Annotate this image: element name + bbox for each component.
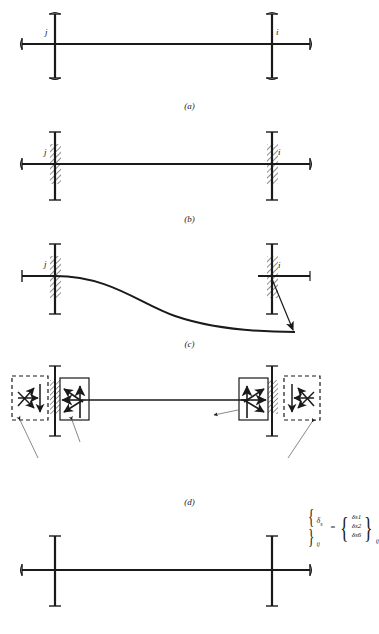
displacement-arrow [272,279,293,330]
deflection-curve [55,276,295,332]
load-arrow-right-diag-dn [298,392,314,408]
fixed-support-hatch-j [50,144,61,184]
joint-load-arrows-left [18,384,40,412]
leader-right-load-eq [288,422,312,458]
joint-label-i: i [276,27,279,37]
joint-label-j: j [44,259,47,269]
panel-c: j i {δs}ij = { δs1 δs2 δs6 } ij (c) [0,234,379,358]
member-force-arrows-right [241,386,266,418]
panel-e: j i {P}i = −{Ps}ei (e) [0,522,379,634]
member-force-box-right [239,378,268,420]
joint-label-i: i [278,147,281,157]
joint-label-i: i [278,260,281,270]
load-arrow-left-diag-dn [18,392,34,408]
panel-b-caption: (b) [0,214,379,224]
panel-a: j i (a) [0,0,379,118]
load-arrow-left-diag-up [18,388,34,406]
panel-d: {Fs}fij = −[k]fii{δs}ij {Fs}fji = −[k]ji… [0,358,379,508]
leader-center-to-right-box [214,410,238,415]
joint-label-j: j [45,27,48,37]
panel-d-caption: (d) [0,497,379,507]
panel-e-svg [0,522,379,634]
panel-d-graphic [0,358,379,508]
vector-row-1: δs1 [352,513,361,522]
panel-e-graphic [0,522,379,634]
panel-d-svg [0,358,379,508]
member-force-arrows-left [62,386,86,418]
panel-c-caption: (c) [0,339,379,349]
fixed-support-hatch-j [50,380,60,414]
joint-label-j: j [44,147,47,157]
leader-left-force-eq [72,420,80,442]
fixed-support-hatch-i [267,256,278,298]
panel-a-caption: (a) [0,101,379,111]
member-force-box-left [60,378,89,420]
joint-load-arrows-right [292,384,314,412]
fixed-support-hatch-i [267,144,278,184]
fixed-support-hatch-i [268,380,278,414]
load-arrow-right-diag-up [298,388,314,406]
leader-left-load-eq [20,420,38,458]
panel-b: j i (b) [0,122,379,232]
